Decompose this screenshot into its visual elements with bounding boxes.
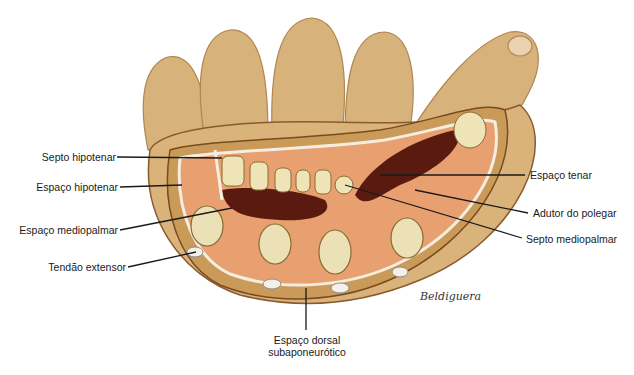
metacarpal-3 [319, 230, 351, 274]
metacarpal-5 [191, 206, 223, 246]
tendon [335, 176, 353, 194]
tendon [222, 156, 244, 186]
label-septo-mediopalmar: Septo mediopalmar [526, 233, 617, 245]
artist-signature: Beldiguera [420, 290, 481, 303]
label-espaco-tenar: Espaço tenar [530, 169, 592, 181]
label-espaco-hipotenar: Espaço hipotenar [36, 181, 118, 193]
finger-middle [272, 18, 345, 135]
label-espaco-dorsal-line1: Espaço dorsal [262, 334, 352, 346]
thumbnail [508, 36, 532, 56]
tendon [275, 168, 291, 192]
tendon [250, 162, 268, 190]
extensor-tendon [392, 267, 408, 277]
metacarpal-4 [259, 224, 291, 264]
thenar-tendon [454, 112, 486, 148]
label-espaco-dorsal-line2: subaponeurótico [262, 346, 352, 358]
label-adutor-do-polegar: Adutor do polegar [533, 207, 616, 219]
extensor-tendon [263, 279, 281, 289]
label-tendao-extensor: Tendão extensor [48, 261, 126, 273]
extensor-tendon [331, 283, 349, 293]
tendon [296, 170, 310, 192]
tendon [315, 170, 331, 194]
label-septo-hipotenar: Septo hipotenar [42, 151, 116, 163]
metacarpal-2 [391, 218, 423, 258]
label-espaco-dorsal: Espaço dorsal subaponeurótico [262, 334, 352, 358]
label-espaco-mediopalmar: Espaço mediopalmar [19, 224, 118, 236]
